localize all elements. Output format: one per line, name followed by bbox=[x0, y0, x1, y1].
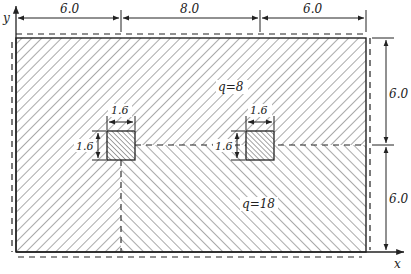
y-axis-label: y bbox=[2, 11, 10, 25]
load-label-upper: q=8 bbox=[218, 80, 244, 94]
left-column-width-label: 1.6 bbox=[111, 104, 129, 117]
x-axis-label: x bbox=[394, 257, 401, 271]
dim-right-2: 6.0 bbox=[389, 192, 408, 206]
right-column-height-label: 1.6 bbox=[215, 140, 233, 153]
dim-top-3: 6.0 bbox=[303, 2, 322, 16]
region-upper bbox=[16, 38, 366, 145]
dim-top-2: 8.0 bbox=[180, 2, 199, 16]
slab-load-diagram: y x 6.0 8.0 6.0 6.0 6.0 q=8 q=18 bbox=[0, 0, 411, 274]
right-column-width-label: 1.6 bbox=[250, 104, 268, 117]
dim-top-1: 6.0 bbox=[60, 2, 79, 16]
region-lower-left bbox=[16, 145, 121, 252]
right-dimension bbox=[372, 38, 394, 250]
left-column-height-label: 1.6 bbox=[76, 140, 94, 153]
dim-right-1: 6.0 bbox=[389, 87, 408, 101]
load-label-lower: q=18 bbox=[242, 197, 275, 211]
